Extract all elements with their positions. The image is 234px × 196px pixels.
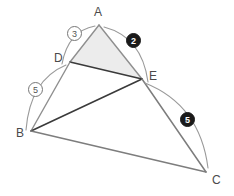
segment-layer bbox=[31, 25, 206, 172]
vertex-label-A: A bbox=[94, 6, 102, 18]
segment-E-C bbox=[142, 79, 206, 172]
segment-B-E bbox=[31, 79, 142, 131]
geometry-canvas bbox=[0, 0, 234, 196]
measure-badge-AE: 2 bbox=[126, 33, 141, 48]
vertex-label-B: B bbox=[16, 127, 24, 139]
measure-arc-EC bbox=[145, 83, 208, 168]
vertex-label-D: D bbox=[54, 52, 63, 64]
vertex-label-E: E bbox=[149, 70, 157, 82]
vertex-label-C: C bbox=[212, 174, 221, 186]
measure-badge-AD: 3 bbox=[67, 26, 82, 41]
measure-badge-EC: 5 bbox=[180, 112, 195, 127]
segment-B-C bbox=[31, 131, 206, 172]
measure-badge-DB: 5 bbox=[28, 82, 43, 97]
measure-arc-DB bbox=[26, 65, 66, 130]
geometry-figure: ADEBC 3255 bbox=[0, 0, 234, 196]
